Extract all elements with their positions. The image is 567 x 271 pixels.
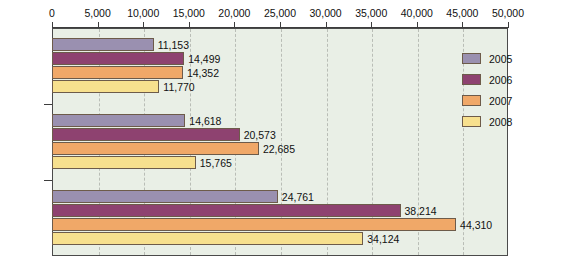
x-axis-tick xyxy=(234,22,235,28)
y-axis-tick xyxy=(44,180,52,181)
bar xyxy=(52,156,196,169)
x-axis-tick xyxy=(189,22,190,28)
bar xyxy=(52,66,183,79)
legend-label: 2007 xyxy=(489,95,512,107)
legend-swatch xyxy=(462,95,481,106)
bar xyxy=(52,128,240,141)
bar xyxy=(52,204,401,217)
bar xyxy=(52,52,184,65)
y-axis-tick xyxy=(44,104,52,105)
x-axis-tick-label: 30,000 xyxy=(310,7,342,19)
legend-item[interactable]: 2005 xyxy=(462,50,512,67)
x-axis-tick xyxy=(143,22,144,28)
x-axis-tick-label: 10,000 xyxy=(127,7,159,19)
x-axis-tick xyxy=(98,22,99,28)
x-axis-tick-label: 0 xyxy=(49,7,55,19)
x-axis-tick-label: 25,000 xyxy=(264,7,296,19)
bar xyxy=(52,142,259,155)
bar-value-label: 14,352 xyxy=(187,67,219,79)
legend: 2005200620072008 xyxy=(462,50,512,134)
x-axis-tick xyxy=(417,22,418,28)
bar xyxy=(52,114,185,127)
x-axis-tick-label: 15,000 xyxy=(173,7,205,19)
bar-chart: 05,00010,00015,00020,00025,00030,00035,0… xyxy=(0,0,567,271)
legend-item[interactable]: 2008 xyxy=(462,113,512,130)
legend-item[interactable]: 2007 xyxy=(462,92,512,109)
x-axis-tick-label: 35,000 xyxy=(355,7,387,19)
bar-value-label: 11,770 xyxy=(163,81,194,93)
legend-swatch xyxy=(462,53,481,64)
bar-value-label: 38,214 xyxy=(405,205,437,217)
bar xyxy=(52,38,154,51)
x-axis-tick xyxy=(326,22,327,28)
x-axis-tick-label: 45,000 xyxy=(446,7,478,19)
legend-label: 2006 xyxy=(489,74,512,86)
bar-value-label: 15,765 xyxy=(200,157,232,169)
bar-value-label: 24,761 xyxy=(282,191,314,203)
x-axis-tick xyxy=(280,22,281,28)
bar xyxy=(52,232,363,245)
legend-label: 2005 xyxy=(489,53,512,65)
x-axis-tick xyxy=(371,22,372,28)
x-axis-tick xyxy=(52,22,53,28)
bar-value-label: 34,124 xyxy=(367,233,399,245)
bar xyxy=(52,218,456,231)
x-axis-tick-label: 20,000 xyxy=(218,7,250,19)
bar-value-label: 14,618 xyxy=(189,115,221,127)
x-axis-tick-label: 50,000 xyxy=(492,7,524,19)
bar xyxy=(52,80,159,93)
legend-label: 2008 xyxy=(489,116,512,128)
legend-swatch xyxy=(462,116,481,127)
bar-value-label: 20,573 xyxy=(244,129,276,141)
x-axis-tick xyxy=(462,22,463,28)
x-axis-tick xyxy=(508,22,509,28)
bar-value-label: 11,153 xyxy=(158,39,189,51)
bar-value-label: 44,310 xyxy=(460,219,492,231)
x-axis-tick-label: 5,000 xyxy=(84,7,110,19)
legend-item[interactable]: 2006 xyxy=(462,71,512,88)
bar-value-label: 22,685 xyxy=(263,143,295,155)
legend-swatch xyxy=(462,74,481,85)
bar-value-label: 14,499 xyxy=(188,53,220,65)
bar xyxy=(52,190,278,203)
x-axis-tick-label: 40,000 xyxy=(401,7,433,19)
